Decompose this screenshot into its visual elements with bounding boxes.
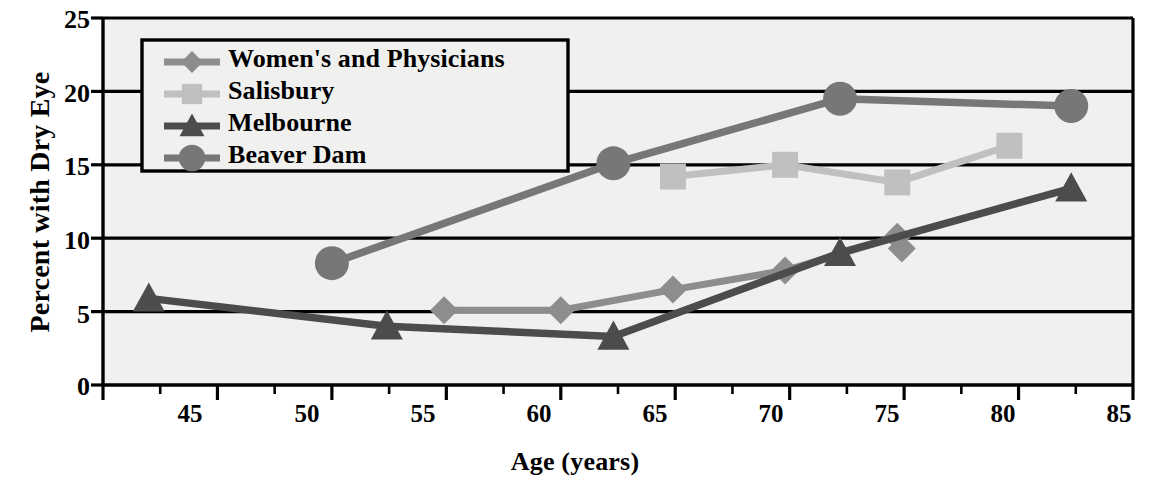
marker-square <box>660 164 686 190</box>
plot-canvas <box>0 0 1150 487</box>
marker-circle <box>1054 89 1088 123</box>
marker-circle <box>596 146 630 180</box>
legend-label-womens: Women's and Physicians <box>228 44 505 74</box>
marker-circle <box>315 246 349 280</box>
dry-eye-prevalence-chart: Percent with Dry Eye Age (years) 25 20 1… <box>0 0 1150 487</box>
marker-square <box>772 152 798 178</box>
marker-square <box>182 84 202 104</box>
legend-label-salisbury: Salisbury <box>228 76 334 106</box>
marker-circle <box>823 82 857 116</box>
legend-label-melbourne: Melbourne <box>228 108 352 138</box>
marker-square <box>996 133 1022 159</box>
marker-square <box>884 169 910 195</box>
marker-circle <box>179 145 206 172</box>
legend-label-beaverdam: Beaver Dam <box>228 140 366 170</box>
